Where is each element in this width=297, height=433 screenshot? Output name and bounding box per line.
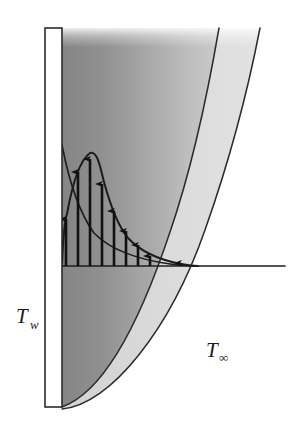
wall-temperature-subscript: w [30,317,39,332]
figure-canvas: T w T ∞ [0,0,297,433]
top-fade-overlay [62,28,272,148]
ambient-temperature-subscript: ∞ [219,350,228,365]
wall-temperature-symbol: T [16,304,29,328]
ambient-temperature-symbol: T [206,338,219,362]
ambient-temperature-label: T ∞ [206,338,228,365]
wall-temperature-label: T w [16,304,39,332]
natural-convection-figure: T w T ∞ [0,0,297,433]
vertical-plate [45,28,62,407]
